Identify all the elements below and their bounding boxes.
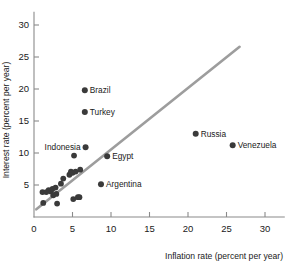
data-point [54,201,60,207]
data-point [53,191,59,197]
point-label-indonesia: Indonesia [45,142,81,152]
data-point-egypt [104,153,110,159]
data-point-venezuela [230,142,236,148]
chart-axes [34,12,284,217]
point-label-russia: Russia [201,129,227,139]
data-point-indonesia [83,144,89,150]
point-label-argentina: Argentina [106,179,142,189]
x-tick-label-30: 30 [260,223,271,234]
point-label-venezuela: Venezuela [238,140,277,150]
y-tick-label-30: 30 [18,19,29,30]
point-label-turkey: Turkey [90,107,116,117]
x-tick-label-15: 15 [144,223,155,234]
data-point [71,153,77,159]
x-axis-title: Inflation rate (percent per year) [165,251,283,261]
data-point-brazil [82,87,88,93]
y-axis-title: Interest rate (percent per year) [1,62,11,179]
data-point [77,167,83,173]
data-point [53,185,59,191]
x-tick-label-10: 10 [106,223,117,234]
data-point-argentina [98,181,104,187]
data-point [77,194,83,200]
point-label-egypt: Egypt [112,151,134,161]
y-tick-label-25: 25 [18,51,29,62]
data-point-russia [193,131,199,137]
data-point-turkey [82,109,88,115]
scatter-chart: 51015202530051015202530 BrazilTurkeyRuss… [0,0,287,263]
y-tick-label-15: 15 [18,115,29,126]
y-tick-label-10: 10 [18,147,29,158]
x-tick-label-0: 0 [31,223,36,234]
data-point [60,176,66,182]
chart-plot-area: 51015202530051015202530 BrazilTurkeyRuss… [0,0,287,263]
x-tick-label-25: 25 [221,223,232,234]
point-label-brazil: Brazil [90,85,111,95]
y-tick-label-20: 20 [18,83,29,94]
y-tick-label-5: 5 [24,179,29,190]
x-tick-label-20: 20 [183,223,194,234]
x-tick-label-5: 5 [70,223,75,234]
data-point [58,181,64,187]
data-point [40,200,46,206]
